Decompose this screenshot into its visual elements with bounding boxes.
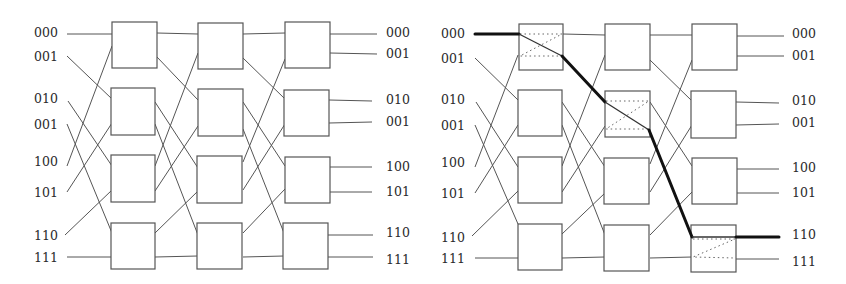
left-stage2-to-stage3-wires [243,33,285,257]
switch [111,223,155,269]
left-input-label: 010 [34,91,58,106]
left-stage-3 [283,22,330,269]
switch-active [605,91,650,137]
right-output-labels: 000 001 010 001 100 101 110 111 [792,26,816,269]
left-stage1-to-stage2-wires [155,33,198,257]
switch [605,24,650,70]
switch [283,223,328,269]
switch [692,24,737,70]
left-input-wires [65,34,112,257]
left-output-label: 000 [386,25,410,40]
right-stage1-to-stage2-wires [562,34,605,258]
right-stage-3 [691,24,737,272]
left-output-label: 100 [386,159,410,174]
left-input-label: 100 [34,154,58,169]
left-input-labels: 000 001 010 001 100 101 110 111 [34,25,58,265]
switch [518,224,562,270]
switch [197,156,242,203]
right-output-label: 001 [792,48,816,63]
left-stage-1 [111,22,157,269]
switch [111,155,155,202]
right-input-label: 001 [441,51,465,66]
switch [691,91,736,138]
right-output-label: 111 [792,254,816,269]
switch [518,90,562,136]
right-output-label: 101 [792,185,816,200]
left-output-label: 111 [386,252,410,267]
left-output-wires [328,34,377,257]
left-network: 000 001 010 001 100 101 110 111 [34,22,410,269]
right-input-label: 111 [441,251,465,266]
left-output-label: 010 [386,92,410,107]
left-input-label: 110 [34,228,58,243]
switch [284,90,329,136]
left-stage-2 [197,23,243,269]
right-stage-2 [604,24,650,271]
switch-active [519,24,563,70]
left-input-label: 111 [34,250,58,265]
right-input-wires [472,55,518,258]
switch [198,89,243,136]
right-output-label: 000 [792,26,816,41]
right-network: 000 001 010 001 100 101 110 111 [441,24,816,272]
switch [518,157,562,203]
left-output-label: 001 [386,114,410,129]
right-output-wires [735,36,784,259]
left-output-label: 110 [386,225,410,240]
right-input-label: 101 [441,186,465,201]
switch [604,158,649,204]
right-input-label: 010 [441,92,465,107]
switch [197,223,242,269]
left-output-label: 101 [386,184,410,199]
right-input-labels: 000 001 010 001 100 101 110 111 [441,26,465,266]
left-input-label: 001 [34,49,58,64]
right-stage-1 [518,24,563,270]
right-output-label: 110 [792,227,816,242]
right-output-label: 001 [792,115,816,130]
switch [111,88,155,135]
right-input-label: 100 [441,155,465,170]
right-input-label: 001 [441,118,465,133]
diagram-canvas: 000 001 010 001 100 101 110 111 [0,0,846,284]
right-output-label: 100 [792,160,816,175]
right-input-label: 000 [441,26,465,41]
right-output-label: 010 [792,93,816,108]
left-input-label: 000 [34,25,58,40]
left-input-label: 101 [34,185,58,200]
switch [692,158,737,204]
left-output-labels: 000 001 010 001 100 101 110 111 [386,25,410,267]
right-input-label: 110 [441,230,465,245]
switch [285,22,330,68]
switch [285,157,330,203]
switch [198,23,243,69]
switch-active [691,225,736,272]
switch [112,22,157,68]
switch [604,225,649,271]
left-input-label: 001 [34,117,58,132]
left-output-label: 001 [386,46,410,61]
